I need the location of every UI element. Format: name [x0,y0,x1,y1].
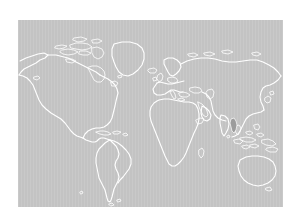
region-europe[interactable] [153,58,214,101]
figure-root [0,0,297,222]
region-maritime-southeast-asia[interactable] [234,124,276,149]
map-panel[interactable] [18,20,283,207]
region-south-america[interactable] [96,140,131,206]
region-africa[interactable] [150,99,204,166]
world-map-svg[interactable] [18,20,283,207]
highlighted-country[interactable] [230,118,237,133]
region-australia[interactable] [238,147,278,191]
region-greenland[interactable] [112,42,157,76]
